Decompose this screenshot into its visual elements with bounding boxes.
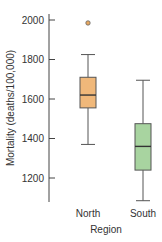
box-north (80, 21, 96, 145)
y-axis: 12001400160018002000 (22, 14, 55, 202)
plot-area (80, 21, 151, 201)
y-tick-label: 1600 (22, 94, 45, 105)
y-tick-label: 1400 (22, 133, 45, 144)
x-category-label: North (76, 208, 100, 219)
y-tick-label: 1200 (22, 173, 45, 184)
y-tick-label: 2000 (22, 15, 45, 26)
x-axis-title: Region (90, 224, 122, 235)
x-category-label: South (130, 208, 156, 219)
y-tick-label: 1800 (22, 54, 45, 65)
box-south (135, 80, 151, 200)
iqr-box (80, 77, 96, 108)
box-plot-chart: 12001400160018002000 NorthSouth Region M… (0, 0, 162, 242)
x-axis: NorthSouth (76, 208, 156, 219)
y-axis-title: Mortality (deaths/100,000) (5, 50, 16, 166)
outlier-point (86, 21, 90, 25)
